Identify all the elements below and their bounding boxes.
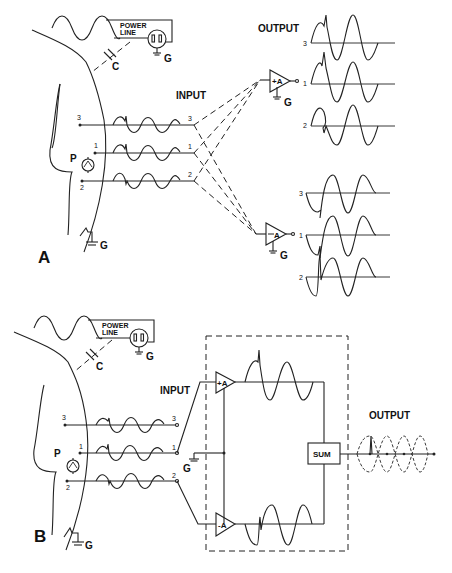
heart-generator-icon — [82, 157, 94, 173]
amp-minus-label-b: -A — [218, 521, 227, 530]
wire-lead2-to-minus — [177, 481, 216, 524]
output-top-label-3: 3 — [303, 40, 307, 47]
panel-a: POWER LINE G C P — [32, 15, 395, 296]
lead-1-b-label-left: 1 — [79, 443, 83, 450]
minus-amp-output-wave — [245, 505, 312, 545]
capacitor-label: C — [112, 61, 119, 72]
lead-1-label-left: 1 — [94, 142, 98, 149]
output-bottom-label-2: 2 — [299, 274, 303, 281]
amp-plus-ground-label: G — [284, 97, 292, 108]
lead-1: 1 1 — [94, 142, 195, 161]
lead-1-b: 1 1 — [79, 443, 179, 461]
lead-3-label-right: 3 — [188, 115, 192, 122]
capacitor-label-b: C — [96, 361, 103, 372]
output-top-label-1: 1 — [303, 80, 307, 87]
output-label-b: OUTPUT — [369, 410, 410, 421]
power-line-label: POWER — [120, 22, 146, 29]
output-label: OUTPUT — [258, 23, 299, 34]
plus-amp-output-wave — [245, 350, 313, 400]
panel-a-label: A — [38, 248, 50, 267]
ground-label-body: G — [100, 240, 108, 251]
power-line-label-b-2: LINE — [102, 329, 118, 336]
body-ground-icon-b — [64, 528, 84, 545]
ground-label-b: G — [146, 351, 154, 362]
capacitor-icon — [104, 49, 116, 60]
arm-outline — [52, 84, 60, 148]
dash-3-to-minus — [194, 125, 256, 234]
figure-canvas: POWER LINE G C P — [0, 0, 452, 573]
lead-3-b-label-left: 3 — [62, 414, 66, 421]
dash-2-to-minus — [194, 181, 256, 234]
capacitive-coupling-line — [92, 42, 130, 72]
dash-1-to-minus — [194, 153, 256, 234]
capacitor-icon-b — [86, 349, 98, 360]
panel-b: POWER LINE G C P G — [14, 316, 436, 551]
lead-2-label-left: 2 — [80, 184, 84, 191]
patient-label-b: P — [54, 448, 61, 459]
lead-3-label-left: 3 — [77, 114, 81, 121]
lead-3: 3 3 — [77, 114, 194, 133]
heart-generator-icon-b — [67, 458, 79, 474]
lead-3-b: 3 3 — [62, 414, 179, 433]
lead-2-b: 2 2 — [66, 472, 179, 491]
input-label-b: INPUT — [160, 385, 190, 396]
amp-plus-label: +A — [272, 77, 283, 86]
lead-2-b-label-right: 2 — [172, 472, 176, 479]
outlet-icon — [148, 30, 166, 55]
ground-label: G — [164, 53, 172, 64]
capacitive-coupling-line-b — [74, 340, 112, 372]
power-line-label-2: LINE — [120, 29, 136, 36]
amp-plus-label-b: +A — [217, 379, 228, 388]
output-bottom-label-1: 1 — [299, 232, 303, 239]
dash-3-to-plus — [194, 80, 260, 125]
output-bottom-label-3: 3 — [299, 190, 303, 197]
patient-label: P — [70, 153, 77, 164]
output-traces-plus: 3 1 2 — [303, 15, 395, 145]
amp-minus-label: A — [274, 231, 280, 240]
reference-ground-label: G — [183, 463, 191, 474]
power-line-label-b: POWER — [102, 322, 128, 329]
lead-2-b-label-left: 2 — [66, 484, 70, 491]
ground-label-body-b: G — [85, 540, 93, 551]
sum-label: SUM — [313, 450, 331, 459]
input-label: INPUT — [176, 90, 206, 101]
body-outline-right-b — [14, 332, 88, 550]
panel-b-label: B — [34, 527, 46, 546]
lead-3-b-label-right: 3 — [172, 415, 176, 422]
body-outline-left — [50, 84, 72, 235]
output-traces-minus: 3 1 2 — [299, 175, 390, 296]
lead-2: 2 2 — [80, 171, 194, 191]
lead-2-label-right: 2 — [188, 171, 192, 178]
output-top-label-2: 2 — [303, 122, 307, 129]
lead-1-label-right: 1 — [188, 143, 192, 150]
amp-minus-ground-label: G — [280, 250, 288, 261]
lead-1-b-label-right: 1 — [172, 444, 176, 451]
body-outline-left-b — [34, 385, 56, 535]
amplifier-minus-icon-b — [216, 513, 324, 536]
